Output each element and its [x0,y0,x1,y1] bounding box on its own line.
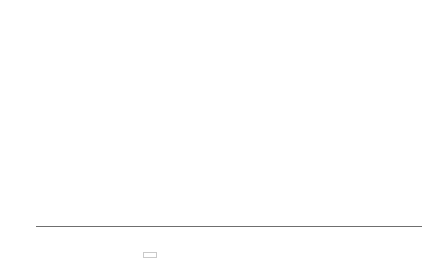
bar-series-group [36,13,422,226]
plot-area [36,13,422,227]
chart-legend [143,252,157,258]
x-axis-line [36,226,422,227]
x-axis-ticks [36,229,422,243]
bibliometric-bar-chart [0,0,429,276]
